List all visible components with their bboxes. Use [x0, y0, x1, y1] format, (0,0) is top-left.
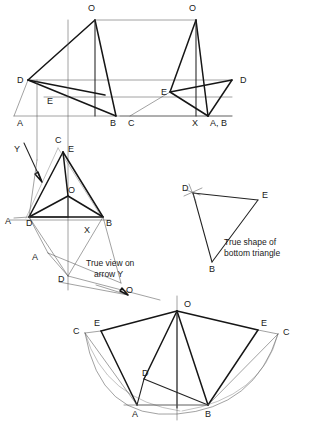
- dev-tie-c-b-right: [208, 334, 278, 405]
- label-ts-e: E: [262, 190, 268, 200]
- dev-ray-o-e-left: [101, 311, 177, 331]
- dev-chord-d-b: [144, 379, 208, 405]
- edge-o-e-end: [170, 20, 196, 92]
- label-aux-a2: A: [32, 252, 38, 262]
- aux-constr-2: [29, 217, 68, 276]
- label-aux-d2: D: [58, 274, 65, 284]
- label-dev-b: B: [205, 409, 211, 419]
- edge-o-b-front: [95, 20, 116, 116]
- label-aux-o: O: [68, 185, 75, 195]
- ts-edge-d-b: [193, 193, 212, 262]
- auxiliary-view-group: [10, 148, 160, 300]
- label-end-d: D: [240, 75, 247, 85]
- development-arc-inner-left: [85, 333, 180, 411]
- label-dev-a: A: [132, 409, 138, 419]
- label-layer: O D E A B O D E C X A, B C E O A D X B A…: [5, 3, 290, 419]
- front-elevation-group: [14, 20, 232, 290]
- label-dev-c-left: C: [73, 326, 80, 336]
- label-dev-e-left: E: [94, 318, 100, 328]
- label-arrow-y: Y: [14, 144, 20, 154]
- label-ts-b: B: [209, 264, 215, 274]
- arrow-y-head: [35, 172, 42, 182]
- label-aux-x: X: [84, 225, 90, 235]
- technical-drawing-canvas: O D E A B O D E C X A, B C E O A D X B A…: [0, 0, 315, 423]
- edge-o-d-front: [28, 20, 95, 80]
- dev-tie-c-a-left: [85, 333, 137, 405]
- label-end-ab: A, B: [210, 118, 227, 128]
- end-elevation-group: [120, 20, 232, 116]
- label-aux-b: B: [106, 218, 112, 228]
- edge-e-d-end: [170, 80, 232, 92]
- note-true-shape-line1: True shape of: [224, 237, 277, 247]
- development-arc: [85, 333, 278, 414]
- edge-d-e-front: [28, 80, 105, 95]
- label-end-e: E: [161, 87, 167, 97]
- edge-d-b-front: [28, 80, 116, 116]
- label-front-b: B: [110, 118, 116, 128]
- note-true-view-line2: arrow Y: [94, 269, 123, 279]
- label-aux-o2: O: [126, 285, 133, 295]
- label-dev-c-right: C: [283, 327, 290, 337]
- dev-chord-d-a: [137, 379, 144, 405]
- dev-tie-c-e-right: [258, 330, 278, 334]
- drawing-page: O D E A B O D E C X A, B C E O A D X B A…: [0, 0, 315, 423]
- arrow-y-group: [24, 143, 42, 182]
- aux-constr-3: [48, 253, 68, 276]
- label-end-x: X: [192, 118, 198, 128]
- ts-edge-d-e: [193, 193, 258, 200]
- edge-e-ab-end: [170, 92, 208, 116]
- label-aux-a: A: [5, 216, 11, 226]
- label-front-e: E: [47, 96, 53, 106]
- dev-chord-e-a-left: [101, 331, 137, 405]
- label-end-o: O: [189, 3, 196, 13]
- label-end-c: C: [128, 118, 135, 128]
- label-dev-e-right: E: [261, 318, 267, 328]
- label-front-d: D: [17, 75, 24, 85]
- note-true-shape-line2: bottom triangle: [224, 248, 280, 258]
- label-front-a: A: [17, 118, 23, 128]
- edge-o-ab-end: [196, 20, 208, 116]
- label-aux-e: E: [68, 144, 74, 154]
- dev-ray-o-e-right: [177, 311, 258, 330]
- leader-lines-group: [59, 282, 128, 295]
- dev-ray-o-b: [177, 311, 208, 405]
- label-aux-c: C: [55, 135, 62, 145]
- label-dev-o: O: [184, 299, 191, 309]
- label-ts-d: D: [182, 183, 189, 193]
- edge-d-ab-end: [208, 80, 232, 116]
- leader-line-1: [59, 282, 128, 295]
- development-group: [85, 296, 278, 420]
- label-dev-d: D: [142, 368, 149, 378]
- aux-constr-5: [68, 276, 160, 300]
- aux-edge-o-b: [68, 196, 103, 217]
- dev-chord-e-b-right: [208, 330, 258, 405]
- thin-edge-a-d: [14, 80, 28, 116]
- label-aux-d: D: [26, 218, 33, 228]
- dev-ray-o-d: [144, 311, 177, 379]
- label-front-o: O: [88, 3, 95, 13]
- dev-tie-c-e-left: [85, 331, 101, 333]
- note-true-view-line1: True view on: [86, 258, 135, 268]
